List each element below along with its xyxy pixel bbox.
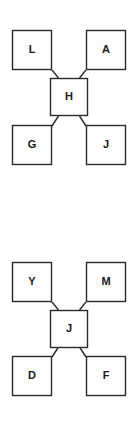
- node-label: L: [29, 43, 36, 55]
- diagram-2: Y M J D F: [13, 263, 126, 396]
- node-bottom-left[interactable]: G: [13, 126, 52, 165]
- connector-top-right: [80, 302, 87, 310]
- node-label: Y: [28, 275, 36, 287]
- connector-top-left: [52, 302, 59, 310]
- node-label: F: [103, 369, 110, 381]
- connector-bottom-right: [80, 116, 87, 126]
- node-label: M: [101, 275, 110, 287]
- node-center[interactable]: H: [51, 79, 88, 116]
- node-top-right[interactable]: M: [87, 263, 126, 302]
- connector-bottom-left: [52, 347, 59, 357]
- node-bottom-right[interactable]: J: [87, 126, 126, 165]
- node-bottom-left[interactable]: D: [13, 357, 52, 396]
- connector-top-right: [80, 70, 87, 78]
- node-label: D: [28, 369, 36, 381]
- node-diagrams-svg: L A H G J: [0, 0, 137, 440]
- connector-bottom-right: [80, 347, 87, 357]
- node-top-left[interactable]: L: [13, 31, 52, 70]
- node-label: J: [103, 138, 109, 150]
- node-top-left[interactable]: Y: [13, 263, 52, 302]
- center-label: H: [65, 90, 73, 102]
- center-label: J: [66, 322, 72, 334]
- diagram-1: L A H G J: [13, 31, 126, 165]
- connector-top-left: [52, 70, 59, 78]
- node-label: A: [102, 43, 110, 55]
- node-bottom-right[interactable]: F: [87, 357, 126, 396]
- connector-bottom-left: [52, 116, 59, 126]
- node-top-right[interactable]: A: [87, 31, 126, 70]
- node-center[interactable]: J: [51, 311, 88, 348]
- diagram-canvas: L A H G J: [0, 0, 137, 440]
- node-label: G: [28, 138, 37, 150]
